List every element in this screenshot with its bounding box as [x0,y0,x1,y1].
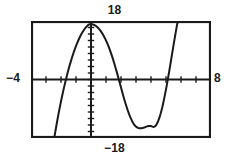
x-min-label: −4 [6,72,20,84]
plot-window [31,21,211,138]
graph-figure: 18 −18 −4 8 [0,0,229,161]
y-max-label: 18 [0,4,229,16]
y-min-label: −18 [0,142,229,154]
plot-svg [31,21,211,138]
x-max-label: 8 [214,72,221,84]
